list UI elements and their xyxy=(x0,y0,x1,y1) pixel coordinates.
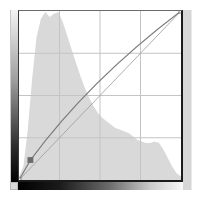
right-edge-bar xyxy=(183,10,192,190)
curve-control-point[interactable] xyxy=(19,178,21,180)
curves-graph[interactable] xyxy=(18,10,183,182)
input-gradient-bar xyxy=(18,182,183,190)
output-gradient-bar xyxy=(10,10,18,182)
gradient-corner-swatch xyxy=(10,182,18,190)
curve-control-point[interactable] xyxy=(179,11,181,13)
curves-panel xyxy=(0,0,201,201)
curves-graph-canvas[interactable] xyxy=(19,11,181,180)
curve-control-point[interactable] xyxy=(28,158,33,163)
